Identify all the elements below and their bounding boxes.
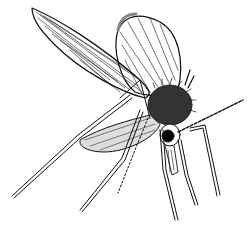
- leg-5: [178, 140, 195, 205]
- thorax: [146, 70, 196, 125]
- insect-illustration: [0, 0, 250, 226]
- back-wing: [116, 14, 181, 95]
- front-wing: [32, 8, 149, 98]
- sand-fly-drawing: [0, 0, 250, 226]
- abdomen: [80, 115, 160, 152]
